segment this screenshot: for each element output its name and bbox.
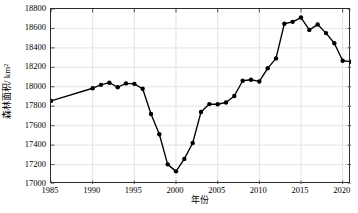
x-tick-label: 2000 — [167, 186, 184, 195]
chart-canvas — [51, 9, 351, 184]
y-tick-label: 17400 — [25, 140, 46, 149]
forest-area-line-chart: 森林面积/ km² 170001720017400176001780018000… — [0, 0, 358, 213]
plot-area — [50, 8, 350, 183]
x-tick-label: 1995 — [125, 186, 142, 195]
x-tick-label: 2015 — [292, 186, 309, 195]
y-tick-label: 18400 — [25, 43, 46, 52]
x-tick-label: 2020 — [333, 186, 350, 195]
x-tick-label: 2010 — [250, 186, 267, 195]
y-tick-label: 18800 — [25, 4, 46, 13]
x-tick-label: 1985 — [42, 186, 59, 195]
series-line — [51, 18, 351, 172]
y-tick-label: 18000 — [25, 82, 46, 91]
series-markers — [51, 15, 351, 173]
x-tick-label: 2005 — [208, 186, 225, 195]
y-tick-label: 17800 — [25, 101, 46, 110]
y-tick-label: 17200 — [25, 159, 46, 168]
y-tick-label: 18600 — [25, 23, 46, 32]
grid-lines — [51, 9, 351, 184]
tick-marks — [51, 9, 351, 184]
y-tick-label: 17600 — [25, 120, 46, 129]
y-tick-label: 18200 — [25, 62, 46, 71]
x-tick-label: 1990 — [83, 186, 100, 195]
x-axis-title: 年份 — [50, 196, 350, 205]
y-axis-title: 森林面积/ km² — [0, 0, 14, 183]
y-axis-title-text: 森林面积/ km² — [3, 64, 12, 119]
